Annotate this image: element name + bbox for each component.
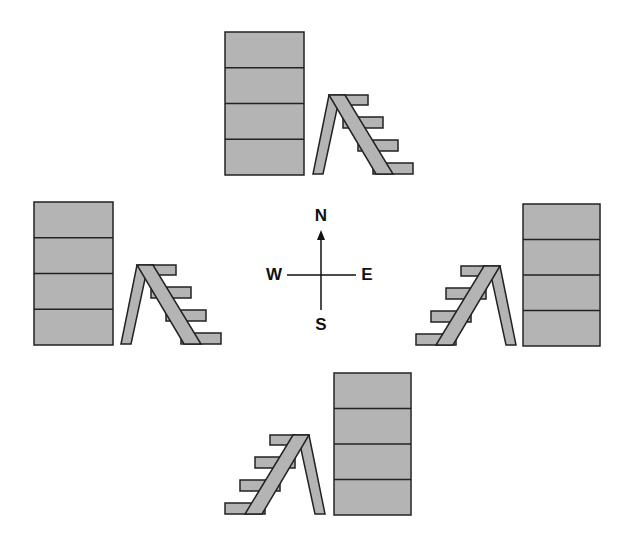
north-box: [225, 32, 304, 175]
compass-label-north: N: [315, 206, 327, 226]
north-arrow-icon: [317, 230, 325, 240]
south-stair: [225, 435, 325, 514]
diagram-canvas: N S E W: [0, 0, 638, 542]
east-group: [416, 204, 600, 346]
west-group: [34, 202, 221, 345]
compass-label-west: W: [266, 265, 282, 285]
north-stair: [313, 95, 413, 174]
south-box: [334, 373, 411, 515]
south-group: [225, 373, 411, 515]
east-stair: [416, 266, 516, 345]
east-box: [523, 204, 600, 346]
compass-label-east: E: [361, 265, 372, 285]
diagram-svg: [0, 0, 638, 542]
north-group: [225, 32, 413, 175]
compass: [287, 230, 356, 310]
west-stair: [121, 265, 221, 344]
compass-label-south: S: [315, 315, 326, 335]
west-box: [34, 202, 113, 345]
